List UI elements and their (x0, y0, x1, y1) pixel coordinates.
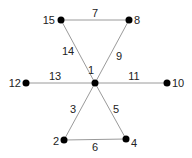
edge-label-14: 14 (62, 45, 74, 57)
edge-8-1 (95, 20, 129, 83)
node-12 (23, 80, 30, 87)
node-label-10: 10 (172, 77, 184, 89)
edge-1-2 (64, 83, 95, 140)
node-label-2: 2 (53, 135, 59, 147)
node-label-1: 1 (88, 64, 94, 76)
node-label-15: 15 (43, 14, 55, 26)
edge-1-4 (95, 83, 126, 139)
edge-label-7: 7 (92, 7, 98, 19)
node-2 (61, 137, 68, 144)
edge-label-6: 6 (92, 141, 98, 153)
edge-label-9: 9 (116, 50, 122, 62)
edge-label-3: 3 (70, 103, 76, 115)
node-15 (58, 17, 65, 24)
nodes-layer (23, 17, 171, 144)
node-label-4: 4 (131, 137, 137, 149)
node-8 (126, 17, 133, 24)
edge-label-11: 11 (128, 70, 139, 82)
edge-label-5: 5 (113, 103, 119, 115)
node-label-8: 8 (134, 14, 140, 26)
edge-label-13: 13 (49, 70, 61, 82)
node-10 (164, 80, 171, 87)
edge-2-4 (64, 139, 126, 140)
node-4 (123, 136, 130, 143)
node-label-12: 12 (9, 77, 21, 89)
node-1 (92, 80, 99, 87)
graph-diagram: 71491311356 1158121024 (0, 0, 192, 158)
